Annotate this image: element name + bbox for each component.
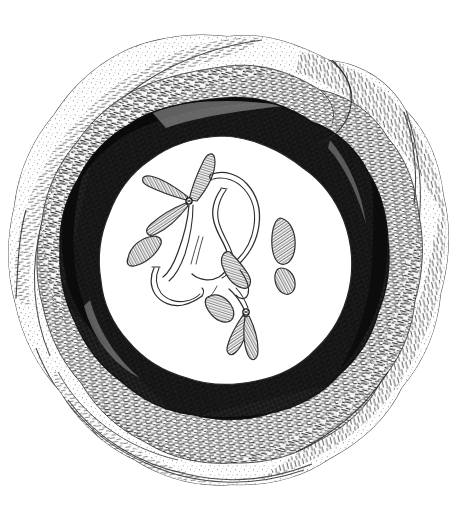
cell-nucleus-drawing	[0, 0, 457, 521]
illustration-canvas: Cell nucleus with chromosomes — pen and …	[0, 0, 457, 521]
